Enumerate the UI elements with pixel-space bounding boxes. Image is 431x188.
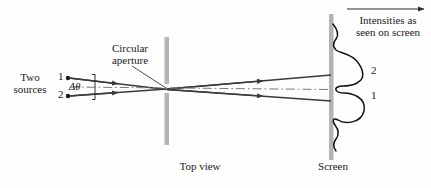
aperture-leader-line (132, 66, 166, 88)
intensities-axis-label: Intensities as seen on screen (346, 14, 430, 39)
screen-bar (329, 14, 334, 160)
delta-theta-label: Δθ (69, 81, 80, 93)
top-view-label: Top view (168, 160, 232, 172)
peak-1-label: 1 (371, 89, 377, 101)
source-2-label: 2 (58, 88, 64, 100)
two-sources-label: Two sources (4, 71, 56, 96)
intensity-curve (333, 24, 364, 151)
ray-source2-outgoing-arrow (167, 81, 263, 89)
source-1-label: 1 (58, 70, 64, 82)
ray-source1-outgoing-arrow (167, 90, 263, 97)
ray-source2-arrow (69, 93, 118, 97)
optics-resolution-diagram: Two sources 1 2 Δθ Circular aperture Int… (0, 0, 431, 188)
screen-label: Screen (302, 160, 364, 172)
peak-2-label: 2 (371, 64, 377, 76)
optical-axis-centerline (70, 87, 331, 90)
circular-aperture-label: Circular aperture (94, 42, 166, 67)
aperture-barrier-lower (165, 93, 170, 145)
